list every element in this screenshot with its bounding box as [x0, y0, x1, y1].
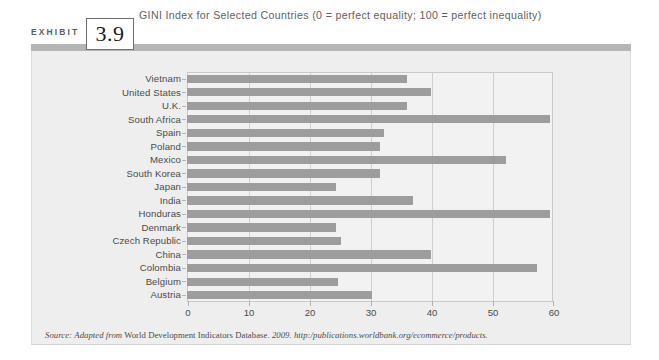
y-axis-category-label: Belgium — [146, 275, 181, 289]
source-year: 2009. — [272, 330, 292, 340]
y-axis-category-label: Honduras — [139, 207, 181, 221]
exhibit-page: EXHIBIT 3.9 GINI Index for Selected Coun… — [0, 0, 659, 360]
x-axis-tick-label: 50 — [488, 307, 499, 318]
x-axis-tick — [553, 301, 554, 306]
y-axis-category-label: Mexico — [150, 153, 181, 167]
bar-row: Japan — [187, 180, 553, 194]
y-axis-category-label: Colombia — [140, 261, 181, 275]
y-axis-tick — [182, 119, 186, 120]
bar-row: South Korea — [187, 167, 553, 181]
y-axis-tick — [182, 106, 186, 107]
y-axis-category-label: U.K. — [162, 99, 181, 113]
y-axis-category-label: Japan — [154, 180, 181, 194]
bar-rows: VietnamUnited StatesU.K.South AfricaSpai… — [187, 72, 553, 302]
bar — [187, 75, 407, 83]
bar — [187, 237, 341, 245]
y-axis-tick — [182, 146, 186, 147]
y-axis-category-label: Czech Republic — [112, 234, 181, 248]
bar-row: Spain — [187, 126, 553, 140]
y-axis-tick — [182, 200, 186, 201]
bar — [187, 88, 431, 96]
bar — [187, 129, 384, 137]
y-axis-tick — [182, 133, 186, 134]
y-axis-category-label: Denmark — [141, 221, 181, 235]
y-axis-category-label: United States — [122, 86, 181, 100]
bar — [187, 142, 380, 150]
bar-row: Poland — [187, 140, 553, 154]
y-axis-tick — [182, 227, 186, 228]
y-axis-tick — [182, 173, 186, 174]
bar — [187, 196, 413, 204]
bar-row: Vietnam — [187, 72, 553, 86]
bar — [187, 223, 336, 231]
bar — [187, 156, 506, 164]
y-axis-tick — [182, 79, 186, 80]
bar — [187, 183, 336, 191]
y-axis-category-label: China — [155, 248, 181, 262]
bar — [187, 169, 380, 177]
y-axis-category-label: Spain — [156, 126, 181, 140]
bar — [187, 102, 407, 110]
bar — [187, 291, 372, 299]
x-axis-tick-label: 60 — [549, 307, 560, 318]
bar — [187, 115, 550, 123]
exhibit-number-badge: 3.9 — [86, 18, 134, 50]
y-axis-category-label: Poland — [151, 140, 181, 154]
x-axis-tick-label: 40 — [427, 307, 438, 318]
y-axis-tick — [182, 187, 186, 188]
source-url: http:/publications.worldbank.org/ecommer… — [294, 330, 488, 340]
x-axis-tick-label: 20 — [305, 307, 316, 318]
y-axis-tick — [182, 92, 186, 93]
y-axis-tick — [182, 214, 186, 215]
bar-row: U.K. — [187, 99, 553, 113]
y-axis-category-label: South Africa — [128, 113, 181, 127]
bar-row: South Africa — [187, 113, 553, 127]
y-axis-category-label: South Korea — [127, 167, 181, 181]
bar-row: Belgium — [187, 275, 553, 289]
source-adapted: Adapted from — [74, 330, 122, 340]
bar-row: Honduras — [187, 207, 553, 221]
bar — [187, 250, 431, 258]
bar — [187, 210, 550, 218]
x-axis-tick-label: 30 — [366, 307, 377, 318]
y-axis-tick — [182, 254, 186, 255]
y-axis-tick — [182, 241, 186, 242]
bar-row: Mexico — [187, 153, 553, 167]
x-axis-tick-label: 0 — [185, 307, 190, 318]
source-prefix: Source: — [45, 330, 72, 340]
y-axis-tick — [182, 295, 186, 296]
y-axis-tick — [182, 160, 186, 161]
bar — [187, 278, 338, 286]
bar-row: Austria — [187, 288, 553, 302]
bar-row: Denmark — [187, 221, 553, 235]
chart-plot-wrapper: 0102030405060 VietnamUnited StatesU.K.So… — [0, 0, 659, 360]
bar-row: Colombia — [187, 261, 553, 275]
y-axis-tick — [182, 268, 186, 269]
y-axis-category-label: India — [160, 194, 181, 208]
source-body: World Development Indicators Database. — [124, 330, 269, 340]
y-axis-category-label: Vietnam — [145, 72, 181, 86]
x-axis-tick-label: 10 — [244, 307, 255, 318]
y-axis-tick — [182, 281, 186, 282]
exhibit-number: 3.9 — [96, 23, 125, 45]
bar — [187, 264, 537, 272]
bar-row: India — [187, 194, 553, 208]
bar-row: China — [187, 248, 553, 262]
source-note: Source: Adapted from World Development I… — [45, 330, 488, 340]
y-axis-category-label: Austria — [150, 288, 181, 302]
bar-row: United States — [187, 86, 553, 100]
bar-row: Czech Republic — [187, 234, 553, 248]
